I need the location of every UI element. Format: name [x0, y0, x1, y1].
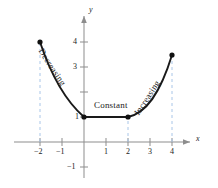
- y-axis-label: y: [89, 6, 93, 14]
- endpoint-dot-0-1: [81, 114, 86, 119]
- x-tick-label-neg2: −2: [34, 148, 43, 156]
- x-tick-label-2: 2: [126, 148, 130, 156]
- annotation-constant: Constant: [94, 101, 128, 110]
- x-tick-label-1: 1: [104, 148, 108, 156]
- endpoint-dot-4-3p5: [169, 52, 174, 57]
- y-tick-label-1: 1: [75, 113, 79, 121]
- graph-canvas: [0, 0, 218, 188]
- graph-figure: x y −2 −1 1 2 3 4 4 3 1 −1 Decreasing Co…: [0, 0, 218, 188]
- x-axis-label: x: [196, 135, 200, 143]
- x-axis-arrow: [183, 139, 190, 145]
- y-axis: [80, 16, 88, 178]
- x-tick-label-4: 4: [170, 148, 174, 156]
- y-tick-label-4: 4: [73, 38, 77, 46]
- y-tick-label-neg1: −1: [67, 163, 76, 171]
- y-axis-arrow: [81, 16, 87, 23]
- x-tick-label-neg1: −1: [56, 148, 65, 156]
- x-tick-label-3: 3: [148, 148, 152, 156]
- y-tick-label-3: 3: [73, 63, 77, 71]
- endpoint-dot-neg2-4: [37, 39, 42, 44]
- endpoint-dot-2-1: [125, 114, 130, 119]
